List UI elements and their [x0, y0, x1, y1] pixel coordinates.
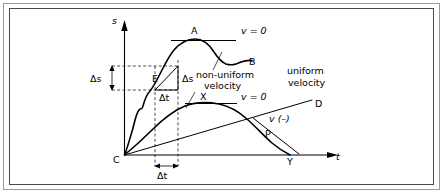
point-label-x: X: [200, 91, 207, 102]
origin-label-c: C: [113, 154, 120, 165]
delta-t-outer-arrow-left: [154, 163, 160, 168]
point-label-p: P: [265, 128, 271, 139]
delta-t-outer-label: Δt: [157, 170, 167, 181]
distance-time-diagram: s t C Δs Δt: [0, 0, 443, 193]
delta-t-inner-label: Δt: [159, 92, 169, 103]
delta-t-outer-dimension: [154, 163, 179, 168]
t-axis-label: t: [336, 151, 341, 162]
point-label-y: Y: [286, 156, 293, 167]
point-label-a: A: [191, 25, 198, 36]
non-uniform-label-line2: velocity: [204, 80, 242, 91]
delta-s-inner-label: Δs: [182, 73, 193, 84]
point-label-b: B: [249, 56, 256, 67]
point-label-d: D: [315, 98, 322, 109]
v-zero-top-label: v = 0: [241, 25, 267, 36]
figure-frame: s t C Δs Δt: [0, 0, 443, 193]
s-axis-arrowhead: [121, 20, 127, 31]
leader-line-to-curve-x: [186, 92, 195, 108]
delta-s-outer-label: Δs: [90, 73, 101, 84]
v-zero-mid-label: v = 0: [241, 91, 267, 102]
uniform-velocity-label-line2: velocity: [288, 77, 326, 88]
uniform-velocity-label-line1: uniform: [287, 65, 324, 76]
non-uniform-label-line1: non-uniform: [196, 69, 254, 80]
uniform-velocity-line-cd: [125, 100, 313, 155]
delta-s-outer-dimension: [109, 65, 114, 91]
s-axis-label: s: [112, 15, 117, 26]
v-negative-label: v (–): [269, 113, 290, 124]
